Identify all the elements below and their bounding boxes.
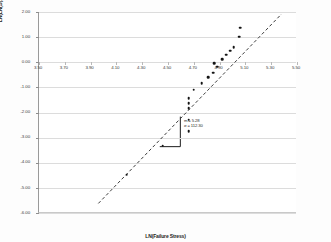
x-tick-label: 4.90 [206,66,232,70]
x-axis-title: LN(Failure Stress) [0,234,331,239]
y-tick-label: -5.00 [8,186,30,190]
parameter-line: σ = 112.30 [184,123,203,128]
x-tick-label: 4.10 [102,66,128,70]
y-tickmark [36,87,39,88]
y-tick-label: 2.00 [8,10,30,14]
y-tickmark [36,163,39,164]
data-point [187,130,190,133]
x-tick-label: 5.50 [283,66,309,70]
y-tick-label: -4.00 [8,160,30,164]
x-tick-label: 4.70 [180,66,206,70]
x-tick-label: 4.30 [128,66,154,70]
x-tick-label: 4.50 [154,66,180,70]
data-point [187,102,190,105]
gridline [39,138,296,139]
gridline [39,37,296,38]
data-point [212,72,215,75]
gridline [39,188,296,189]
gridline [39,87,296,88]
y-tickmark [36,213,39,214]
y-tickmark [36,138,39,139]
y-tick-label: -6.00 [8,211,30,215]
y-tick-label: -2.00 [8,110,30,114]
gridline [39,113,296,114]
parameter-line: m = 5.28 [184,118,203,123]
data-point [238,35,241,38]
data-point [229,49,232,52]
y-tick-label: -1.00 [8,85,30,89]
y-tickmark [36,113,39,114]
x-tick-label: 3.70 [51,66,77,70]
weibull-parameters-annotation: m = 5.28σ = 112.30 [184,118,203,128]
gridline [39,213,296,214]
data-point [162,144,165,147]
data-point [213,62,216,65]
y-tick-label: -3.00 [8,135,30,139]
data-point [239,26,242,29]
data-point [125,174,128,177]
gridline [39,12,296,13]
y-axis-title: LN(LN(1/(1-Probability of Failure))) [0,0,3,54]
x-tick-label: 3.90 [77,66,103,70]
x-tick-label: 5.30 [257,66,283,70]
data-point [200,82,203,85]
y-tick-label: 0.00 [8,60,30,64]
x-tick-label: 3.50 [25,66,51,70]
data-point [221,58,224,61]
y-tick-label: 1.00 [8,35,30,39]
gridline [39,163,296,164]
plot-area [38,12,296,213]
data-point [193,89,196,92]
y-tickmark [36,188,39,189]
y-tickmark [36,37,39,38]
data-point [187,97,190,100]
x-tick-label: 5.10 [231,66,257,70]
data-point [207,76,210,79]
y-tickmark [36,12,39,13]
data-point [225,53,228,56]
data-point [187,107,190,110]
data-point [232,46,235,49]
weibull-probability-chart: 2.001.000.00-1.00-2.00-3.00-4.00-5.00-6.… [0,0,331,242]
